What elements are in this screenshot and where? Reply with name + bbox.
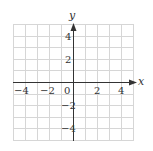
y-tick-label: −2 [61,101,76,111]
coordinate-grid [0,0,153,151]
y-tick-label: 2 [65,55,71,65]
y-axis-label: y [69,10,75,21]
x-axis-label: x [138,76,144,87]
x-tick-label: 2 [94,86,100,96]
x-tick-label: 4 [118,86,124,96]
y-tick-label: −4 [61,124,76,134]
y-tick-label: 4 [65,32,71,42]
x-tick-label: −2 [40,86,55,96]
x-tick-label: −4 [14,86,29,96]
origin-label: 0 [64,86,70,96]
